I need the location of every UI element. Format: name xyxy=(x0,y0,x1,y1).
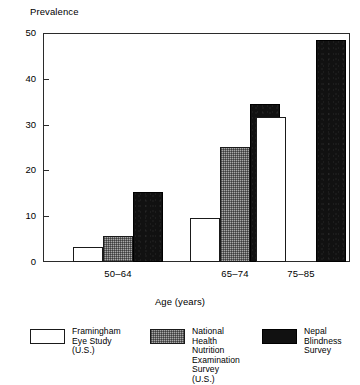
y-tick-mark xyxy=(43,170,49,171)
bar xyxy=(220,147,250,262)
y-tick-mark xyxy=(43,79,49,80)
y-tick-label: 30 xyxy=(0,119,36,130)
y-tick-mark xyxy=(43,125,49,126)
legend-label: Framingham Eye Study (U.S.) xyxy=(72,327,121,356)
x-tick-label-1: 50–64 xyxy=(104,268,131,279)
x-tick-label-3: 75–85 xyxy=(287,268,314,279)
bar xyxy=(103,236,133,262)
legend-label: Nepal Blindness Survey xyxy=(304,327,342,356)
bar xyxy=(133,192,163,262)
legend-label: National Health Nutrition Examination Su… xyxy=(192,327,240,385)
y-axis-title: Prevalence xyxy=(30,6,79,17)
legend-swatch-white xyxy=(30,329,65,344)
bar xyxy=(73,247,103,262)
chart-legend: Framingham Eye Study (U.S.)National Heal… xyxy=(0,327,360,370)
legend-swatch-gray xyxy=(150,329,185,344)
legend-swatch-black xyxy=(262,329,297,344)
y-tick-label: 10 xyxy=(0,210,36,221)
y-tick-label: 40 xyxy=(0,73,36,84)
y-tick-label: 50 xyxy=(0,27,36,38)
x-tick-label-2: 65–74 xyxy=(221,268,248,279)
bar xyxy=(256,117,286,262)
y-tick-mark xyxy=(43,216,49,217)
bar xyxy=(190,218,220,262)
y-tick-label: 0 xyxy=(0,256,36,267)
x-axis-title: Age (years) xyxy=(0,296,360,307)
bar xyxy=(316,40,346,262)
y-tick-label: 20 xyxy=(0,164,36,175)
